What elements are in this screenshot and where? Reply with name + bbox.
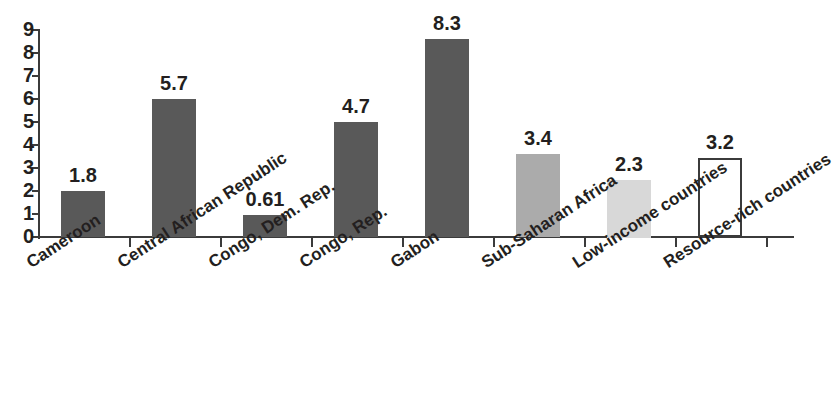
bar-value-label: 8.3 <box>407 13 487 33</box>
y-axis-tick-label: 5 <box>10 111 34 131</box>
y-axis-line <box>38 29 40 239</box>
category-label: Gabon <box>387 227 443 272</box>
category-label: Resource-rich countries <box>660 149 834 271</box>
y-axis-tick-label: 6 <box>10 88 34 108</box>
y-axis-tick-label: 9 <box>10 19 34 39</box>
y-axis-tick-label: 4 <box>10 134 34 154</box>
bar-value-label: 4.7 <box>316 96 396 116</box>
bar-value-label: 3.2 <box>680 132 760 152</box>
y-axis-tick-label: 8 <box>10 42 34 62</box>
y-axis-tick-label: 7 <box>10 65 34 85</box>
y-axis-tick-label: 0 <box>10 226 34 246</box>
y-axis-tick-label: 1 <box>10 203 34 223</box>
bar-value-label: 5.7 <box>134 73 214 93</box>
bar-value-label: 1.8 <box>43 165 123 185</box>
y-axis-tick-label: 2 <box>10 180 34 200</box>
bar <box>425 39 469 237</box>
bar-value-label: 3.4 <box>498 128 578 148</box>
bar-value-label: 2.3 <box>589 154 669 174</box>
y-axis-tick-label: 3 <box>10 157 34 177</box>
x-axis-tick <box>766 238 768 247</box>
category-label: Central African Republic <box>114 148 290 272</box>
